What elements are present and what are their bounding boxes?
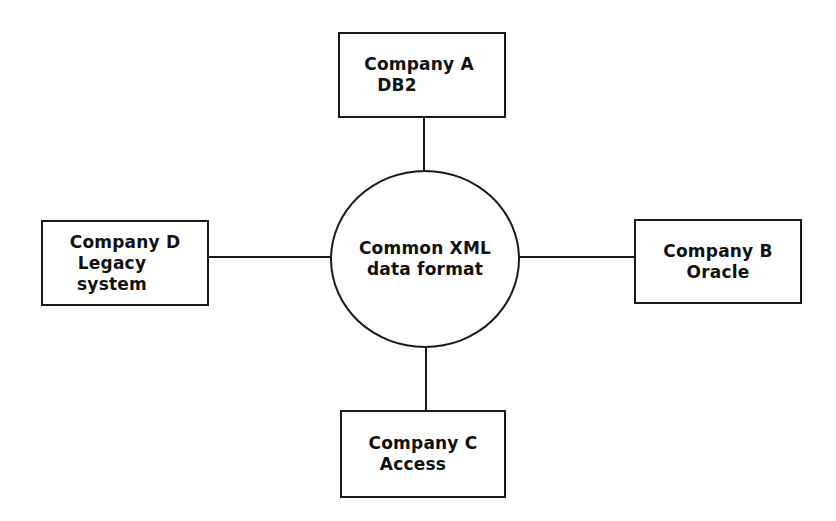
node-company-c: Company C Access xyxy=(340,410,506,498)
company-c-db: Access xyxy=(380,454,446,475)
node-company-a: Company A DB2 xyxy=(338,32,506,118)
node-company-d: Company D Legacy system xyxy=(41,220,209,306)
node-company-b: Company B Oracle xyxy=(634,219,802,304)
company-b-db: Oracle xyxy=(687,262,750,283)
diagram-canvas: Common XML data format Company A DB2 Com… xyxy=(0,0,836,521)
company-b-name: Company B xyxy=(663,241,772,262)
company-a-db: DB2 xyxy=(377,75,417,96)
company-c-name: Company C xyxy=(369,433,478,454)
hub-label-line1: Common XML xyxy=(359,238,491,259)
company-d-name: Company D xyxy=(70,232,181,253)
company-d-system-line2: system xyxy=(77,274,147,295)
company-d-system-line1: Legacy xyxy=(78,253,146,274)
hub-label-line2: data format xyxy=(367,259,483,280)
company-a-name: Company A xyxy=(364,54,474,75)
hub-common-xml-format: Common XML data format xyxy=(330,170,520,348)
